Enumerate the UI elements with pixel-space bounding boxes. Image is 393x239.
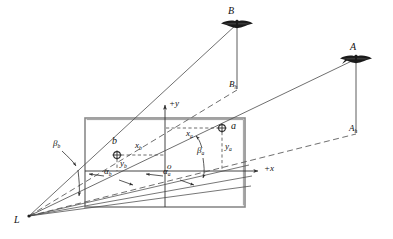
label-axis-x: +x — [264, 164, 274, 173]
ground-ray-L-to-Ah — [29, 134, 356, 216]
label-beta-b: βb — [53, 139, 60, 148]
label-alpha-a-sub: a — [168, 171, 171, 177]
ray-L-to-B — [29, 24, 237, 216]
label-point-Ah: Ah — [349, 124, 357, 133]
label-xa: xa — [186, 129, 193, 138]
label-yb-sub: b — [124, 163, 127, 169]
exposure-station-L-marker — [27, 214, 30, 217]
label-yb: yb — [120, 159, 127, 168]
label-point-Bh: Bh — [229, 80, 237, 89]
label-image-point-a: a — [231, 121, 236, 131]
ray-fan-horizontal-traces — [29, 165, 252, 216]
angle-arrow-beta-a — [196, 136, 204, 178]
label-ya: ya — [225, 142, 232, 151]
aircraft-symbol-B — [221, 20, 253, 29]
label-beta-a: βa — [197, 146, 204, 155]
diagram-svg — [0, 0, 393, 239]
label-point-Bh-base: B — [229, 79, 235, 89]
label-xb-sub: b — [139, 145, 142, 151]
label-image-point-b: b — [112, 136, 117, 146]
label-point-Ah-base: A — [349, 123, 355, 133]
label-xa-sub: a — [190, 133, 193, 139]
figure-canvas: B Bh A Ah a b o +x +y xa ya xb yb αb αa … — [0, 0, 393, 239]
label-beta-b-sub: b — [58, 143, 61, 149]
label-beta-a-base: β — [197, 145, 201, 155]
label-axis-y: +y — [169, 99, 179, 108]
angle-arrow-beta-b — [62, 151, 79, 196]
label-xb: xb — [135, 141, 142, 150]
label-beta-a-sub: a — [202, 150, 205, 156]
aircraft-symbol-A — [340, 55, 372, 65]
label-exposure-station-L: L — [14, 215, 20, 225]
label-alpha-a: αa — [163, 167, 171, 176]
label-point-Ah-sub: h — [355, 128, 358, 134]
label-point-Bh-sub: h — [235, 84, 238, 90]
label-alpha-b-sub: b — [109, 171, 112, 177]
label-point-A: A — [350, 42, 356, 52]
label-alpha-b: αb — [104, 167, 112, 176]
label-ya-sub: a — [229, 146, 232, 152]
label-point-B: B — [228, 6, 234, 16]
label-beta-b-base: β — [53, 138, 57, 148]
